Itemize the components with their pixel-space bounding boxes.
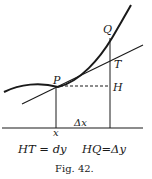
equation-HQ-delta-y: HQ=Δy [81, 142, 126, 156]
curve [4, 5, 131, 92]
equation-HT-dy: HT = dy [17, 142, 67, 156]
tangent-line [22, 45, 143, 104]
label-Q: Q [103, 23, 112, 36]
label-delta-x: Δx [73, 117, 87, 128]
label-P: P [52, 74, 61, 87]
figure-caption: Fig. 42. [55, 163, 94, 174]
label-H: H [112, 81, 123, 94]
derivative-diagram: Q T P H Δx x HT = dy HQ=Δy Fig. 42. [0, 0, 152, 179]
label-T: T [114, 58, 123, 71]
label-x: x [53, 127, 59, 138]
